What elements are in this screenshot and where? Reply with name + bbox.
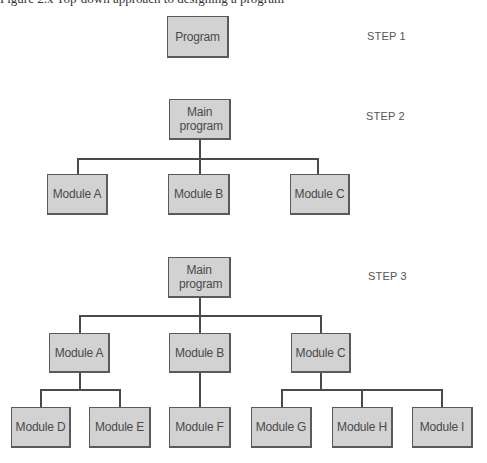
step3-connector-a-down [79,373,81,390]
step3-connector-g [281,389,283,407]
step3-module-i-box: Module I [412,407,473,448]
step3-connector-c-down [320,373,322,390]
step3-main-program-box: Main program [168,257,231,298]
step1-program-box: Program [167,16,229,58]
step2-connector-b [199,158,201,174]
step3-connector-b-down [199,373,201,407]
step2-connector-a [77,158,79,174]
step2-connector-root [199,140,201,159]
step2-main-program-box: Main program [169,99,231,140]
step3-module-f-box: Module F [169,407,231,448]
step3-connector-a [79,315,81,333]
step2-module-b-box: Module B [168,174,230,215]
step3-module-h-box: Module H [332,407,393,448]
step3-module-b-box: Module B [169,333,231,373]
figure-caption-cutoff: Figure 2.x Top-down approach to designin… [0,0,487,7]
step3-module-e-box: Module E [89,407,151,448]
step2-module-c-box: Module C [290,174,350,215]
step2-connector-bar [77,158,318,160]
step3-connector-e [119,389,121,407]
step3-main-program-label: Main program [179,263,219,291]
step3-module-a-box: Module A [49,333,110,373]
step3-connector-d [40,389,42,407]
step3-connector-h [361,389,363,407]
step3-label: STEP 3 [368,270,407,282]
step2-label: STEP 2 [366,110,405,122]
step3-module-d-box: Module D [11,407,71,448]
step2-main-program-label: Main program [180,105,220,133]
step3-connector-b [199,315,201,333]
step3-connector-i [441,389,443,407]
step3-module-g-box: Module G [251,407,312,448]
step3-connector-a-bar [40,389,120,391]
step2-connector-c [317,158,319,174]
step3-module-c-box: Module C [291,333,351,373]
step2-module-a-box: Module A [47,174,108,215]
step3-connector-c [320,315,322,333]
step1-label: STEP 1 [367,30,406,42]
